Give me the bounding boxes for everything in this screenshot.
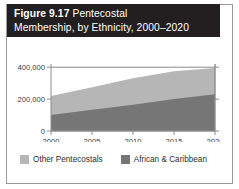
figure-title-line-2: Membership, by Ethnicity, 2000–2020 xyxy=(14,21,214,35)
y-tick-label: 0 xyxy=(41,127,45,136)
legend-item-african-caribbean: African & Caribbean xyxy=(121,155,207,164)
x-tick-label: 2005 xyxy=(84,137,101,142)
legend-item-other-pentecostals: Other Pentecostals xyxy=(20,155,103,164)
x-tick-label: 2000 xyxy=(43,137,60,142)
x-tick-label: 2010 xyxy=(125,137,142,142)
y-tick-label: 200,000 xyxy=(18,95,45,104)
legend-label-african-caribbean: African & Caribbean xyxy=(134,155,207,164)
figure-title-bar: Figure 9.17 Pentecostal Membership, by E… xyxy=(7,4,220,37)
stacked-area-chart: 0200,000400,000 20002005201020152020 xyxy=(7,40,220,142)
legend-label-other-pentecostals: Other Pentecostals xyxy=(33,155,103,164)
legend-swatch-other-pentecostals xyxy=(20,155,29,164)
y-axis-tick-labels: 0200,000400,000 xyxy=(18,63,45,136)
x-axis-tick-labels: 20002005201020152020 xyxy=(43,137,220,142)
x-tick-label: 2015 xyxy=(166,137,183,142)
y-tick-label: 400,000 xyxy=(18,63,45,72)
figure-number: Figure 9.17 xyxy=(14,8,69,19)
figure-title-line-1: Figure 9.17 Pentecostal xyxy=(14,7,214,21)
chart-series-group xyxy=(51,68,215,131)
figure-title-part-1: Pentecostal xyxy=(72,8,127,19)
chart-legend: Other Pentecostals African & Caribbean xyxy=(7,150,220,168)
legend-swatch-african-caribbean xyxy=(121,155,130,164)
chart-plot-area: 0200,000400,000 20002005201020152020 xyxy=(7,40,220,142)
x-tick-label: 2020 xyxy=(207,137,220,142)
